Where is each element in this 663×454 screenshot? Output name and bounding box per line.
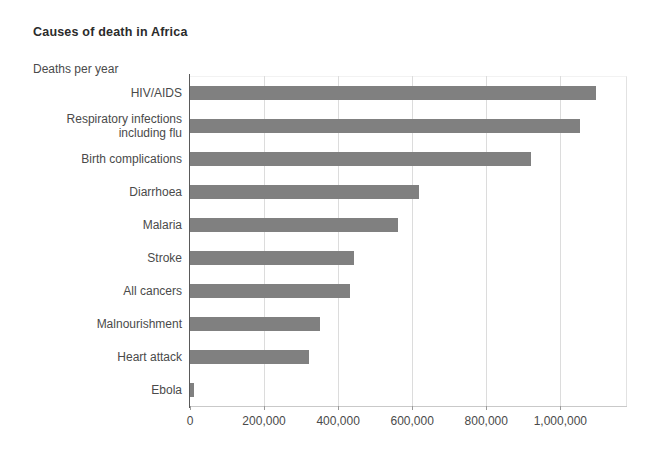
bar [190,185,419,199]
y-axis-category-label: Birth complications [0,152,182,166]
x-axis-tick-label: 800,000 [465,414,508,428]
bar-row [190,383,627,397]
bar [190,317,320,331]
y-axis-category-label: Malaria [0,218,182,232]
y-axis-category-label: HIV/AIDS [0,86,182,100]
y-axis-category-label-line: Ebola [0,383,182,397]
y-axis-category-label-line: Birth complications [0,152,182,166]
bar-row [190,218,627,232]
chart-subtitle: Deaths per year [33,62,118,76]
bar [190,218,398,232]
y-axis-category-label-line: Stroke [0,251,182,265]
bar [190,350,309,364]
y-axis-category-label: Heart attack [0,350,182,364]
chart-title: Causes of death in Africa [33,25,188,39]
bar-row [190,185,627,199]
y-axis-category-label-line: including flu [0,126,182,140]
chart-figure: Causes of death in Africa Deaths per yea… [0,0,663,454]
y-axis-category-label-line: HIV/AIDS [0,86,182,100]
y-axis-category-label: Respiratory infectionsincluding flu [0,112,182,140]
y-axis-category-label-line: Malaria [0,218,182,232]
y-axis-category-label: Diarrhoea [0,185,182,199]
x-axis-tick-label: 0 [187,414,194,428]
bar [190,383,194,397]
x-axis-tickmark [338,406,339,410]
y-axis-category-label: Ebola [0,383,182,397]
bar-row [190,350,627,364]
y-axis-category-label-line: Heart attack [0,350,182,364]
x-axis-tick-label: 200,000 [242,414,285,428]
plot-area [190,76,627,406]
bar [190,251,354,265]
bar [190,152,531,166]
x-axis-tick-label: 400,000 [316,414,359,428]
x-axis-tickmark [264,406,265,410]
y-axis-category-label-line: Diarrhoea [0,185,182,199]
x-axis-tickmark [486,406,487,410]
bar-row [190,86,627,100]
bar-row [190,251,627,265]
x-axis-tickmark [560,406,561,410]
x-axis-tickmark [412,406,413,410]
y-axis-category-label: Stroke [0,251,182,265]
y-axis-category-label: All cancers [0,284,182,298]
bar-row [190,317,627,331]
x-axis-tick-label: 600,000 [391,414,434,428]
y-axis-category-label: Malnourishment [0,317,182,331]
bar-row [190,284,627,298]
y-axis-line [189,74,190,408]
bar [190,284,350,298]
y-axis-category-label-line: Malnourishment [0,317,182,331]
y-axis-category-label-line: Respiratory infections [0,112,182,126]
x-axis-line [190,406,627,407]
bar [190,86,596,100]
bar [190,119,580,133]
bar-row [190,119,627,133]
bar-row [190,152,627,166]
y-axis-category-label-line: All cancers [0,284,182,298]
x-axis-tick-label: 1,000,000 [534,414,587,428]
x-axis-tickmark [190,406,191,410]
